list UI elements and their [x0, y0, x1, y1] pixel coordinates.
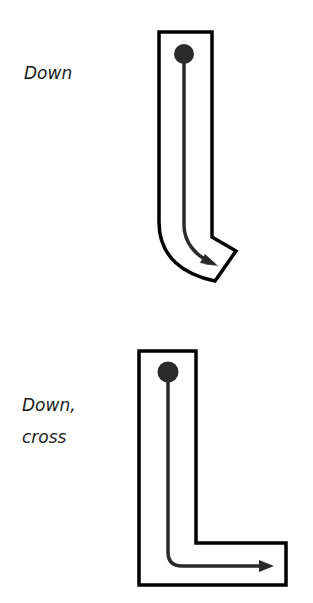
figure-1-outline: [159, 32, 236, 281]
figure-2-l-shape: [139, 351, 286, 585]
figure-2-start-dot-icon: [158, 362, 179, 383]
figure-1-stroke-arrow-icon: [184, 60, 214, 264]
figure-2-stroke-arrow-icon: [168, 380, 262, 566]
figure-1-j-shape: [159, 32, 236, 281]
stroke-diagrams: [0, 0, 313, 603]
figure-2-outline: [139, 351, 286, 585]
figure-2-arrowhead-icon: [259, 560, 274, 572]
